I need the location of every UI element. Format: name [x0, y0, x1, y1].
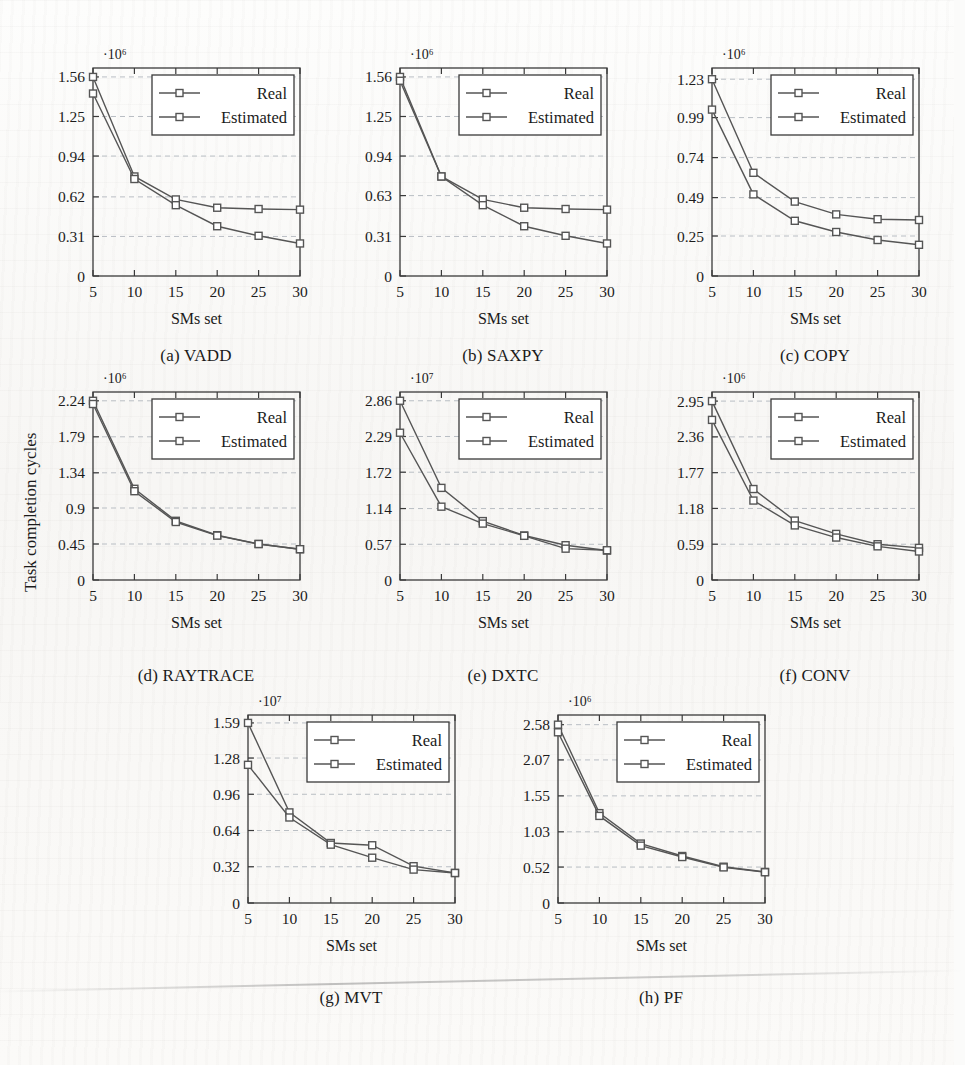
x-tick-label: 10 — [434, 587, 450, 604]
data-point-marker — [709, 106, 716, 113]
x-tick-label: 20 — [209, 587, 225, 604]
legend-marker-estimated — [331, 761, 338, 768]
data-point-marker — [172, 519, 179, 526]
y-tick-label: 1.56 — [58, 68, 85, 85]
y-tick-label: 2.24 — [58, 392, 85, 409]
y-tick-label: 1.77 — [677, 464, 704, 481]
subplot-caption-e: (e) DXTC — [343, 666, 663, 686]
data-point-marker — [369, 854, 376, 861]
x-tick-label: 30 — [447, 910, 463, 927]
y-tick-label: 0.64 — [213, 822, 240, 839]
data-point-marker — [297, 240, 304, 247]
legend-marker-real — [331, 737, 338, 744]
axis-exponent-label: ·10⁶ — [722, 371, 746, 386]
chart-c: ·10⁶00.250.490.740.991.2351015202530SMs … — [652, 42, 933, 338]
y-tick-label: 0.99 — [677, 109, 704, 126]
y-tick-label: 1.03 — [523, 823, 550, 840]
x-tick-label: 30 — [599, 587, 615, 604]
x-axis-title: SMs set — [478, 310, 530, 327]
y-tick-label: 0.32 — [213, 858, 240, 875]
subplot-a: ·10⁶00.310.620.941.251.5651015202530SMs … — [33, 42, 314, 338]
data-point-marker — [555, 721, 562, 728]
legend-marker-estimated — [176, 114, 183, 121]
data-point-marker — [521, 223, 528, 230]
x-axis-title: SMs set — [171, 614, 223, 631]
data-point-marker — [397, 77, 404, 84]
legend-label-estimated: Estimated — [528, 432, 595, 451]
y-tick-label: 1.28 — [213, 750, 240, 767]
x-tick-label: 5 — [89, 587, 97, 604]
x-tick-label: 15 — [787, 283, 803, 300]
x-tick-label: 15 — [168, 587, 184, 604]
legend-marker-real — [641, 737, 648, 744]
x-tick-label: 25 — [870, 587, 886, 604]
x-tick-label: 15 — [475, 283, 491, 300]
data-point-marker — [479, 202, 486, 209]
y-tick-label: 2.29 — [365, 428, 392, 445]
x-tick-label: 5 — [396, 283, 404, 300]
subplot-g: ·10⁷00.320.640.961.281.5951015202530SMs … — [188, 689, 469, 965]
legend-marker-estimated — [795, 438, 802, 445]
x-tick-label: 5 — [89, 283, 97, 300]
x-axis-title: SMs set — [171, 310, 223, 327]
x-tick-label: 30 — [292, 283, 308, 300]
data-point-marker — [604, 240, 611, 247]
x-axis-title: SMs set — [790, 614, 842, 631]
y-tick-label: 2.36 — [677, 428, 704, 445]
data-point-marker — [596, 812, 603, 819]
legend-marker-real — [483, 90, 490, 97]
data-point-marker — [452, 869, 459, 876]
legend-marker-estimated — [641, 761, 648, 768]
axis-exponent-label: ·10⁷ — [258, 694, 282, 709]
data-point-marker — [791, 217, 798, 224]
data-point-marker — [131, 488, 138, 495]
subplot-b: ·10⁶00.310.630.941.251.5651015202530SMs … — [340, 42, 621, 338]
data-point-marker — [286, 814, 293, 821]
data-point-marker — [916, 241, 923, 248]
data-point-marker — [750, 191, 757, 198]
legend-label-estimated: Estimated — [221, 432, 288, 451]
y-tick-label: 0 — [696, 572, 704, 589]
x-tick-label: 10 — [434, 283, 450, 300]
y-tick-label: 1.55 — [523, 787, 550, 804]
y-tick-label: 1.23 — [677, 71, 704, 88]
data-point-marker — [479, 520, 486, 527]
data-point-marker — [791, 198, 798, 205]
data-point-marker — [874, 543, 881, 550]
y-tick-label: 0.74 — [677, 149, 704, 166]
data-point-marker — [214, 532, 221, 539]
data-point-marker — [214, 204, 221, 211]
x-tick-label: 10 — [746, 587, 762, 604]
y-tick-label: 0 — [77, 572, 85, 589]
x-tick-label: 30 — [757, 910, 773, 927]
subplot-caption-b: (b) SAXPY — [343, 346, 663, 366]
x-tick-label: 25 — [870, 283, 886, 300]
x-tick-label: 30 — [911, 283, 927, 300]
data-point-marker — [833, 229, 840, 236]
data-point-marker — [555, 729, 562, 736]
data-point-marker — [709, 398, 716, 405]
y-tick-label: 1.25 — [58, 108, 85, 125]
x-tick-label: 15 — [633, 910, 649, 927]
subplot-caption-f: (f) CONV — [655, 666, 965, 686]
x-axis-title: SMs set — [790, 310, 842, 327]
data-point-marker — [562, 545, 569, 552]
y-tick-label: 0.96 — [213, 786, 240, 803]
data-point-marker — [874, 237, 881, 244]
y-tick-label: 0 — [232, 895, 240, 912]
y-tick-label: 0.49 — [677, 189, 704, 206]
data-point-marker — [438, 484, 445, 491]
data-point-marker — [916, 548, 923, 555]
x-tick-label: 15 — [787, 587, 803, 604]
legend-label-real: Real — [722, 731, 753, 750]
y-tick-label: 1.56 — [365, 68, 392, 85]
data-point-marker — [521, 204, 528, 211]
legend-label-real: Real — [257, 84, 288, 103]
data-point-marker — [916, 217, 923, 224]
data-point-marker — [255, 206, 262, 213]
data-point-marker — [604, 547, 611, 554]
data-point-marker — [438, 173, 445, 180]
y-tick-label: 1.18 — [677, 500, 704, 517]
axis-exponent-label: ·10⁶ — [410, 47, 434, 62]
x-tick-label: 5 — [708, 283, 716, 300]
